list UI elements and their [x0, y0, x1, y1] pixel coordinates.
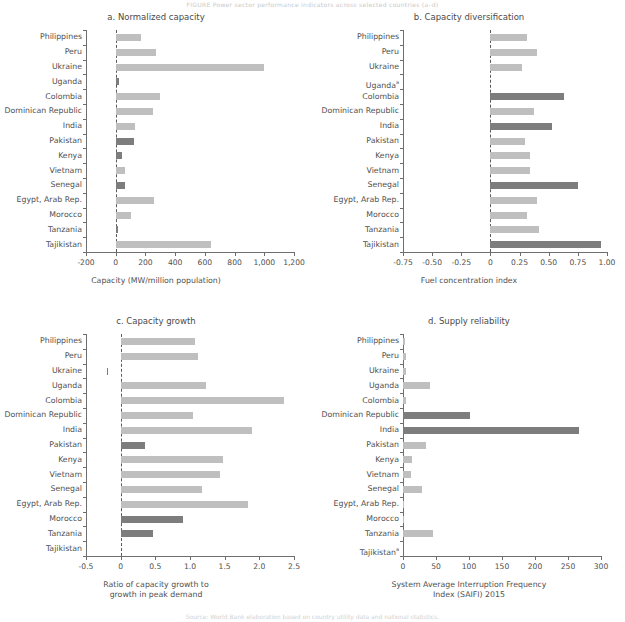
panel-d-bar [403, 486, 422, 493]
panel-a-category-label: Ukraine [0, 63, 82, 71]
panel-d-supply-reliability: d. Supply reliability PhilippinesPeruUkr… [313, 312, 625, 612]
panel-b-category-label: Pakistan [313, 137, 399, 145]
panel-c-bar [121, 516, 183, 523]
panel-b-x-tick-label: 1.00 [587, 258, 625, 267]
panel-a-category-label: Morocco [0, 211, 82, 219]
panel-d-bar [403, 501, 404, 508]
panel-d-x-tick [502, 556, 503, 560]
panel-a-x-tick [294, 252, 295, 256]
panel-c-y-tick [83, 541, 86, 542]
panel-d-y-tick [400, 467, 403, 468]
panel-b-category-label: India [313, 122, 399, 130]
panel-d-category-label: Philippines [313, 337, 399, 345]
panel-a-category-label: Peru [0, 48, 82, 56]
panel-a-bar [116, 49, 156, 56]
panel-a-x-axis-title: Capacity (MW/million population) [0, 276, 312, 286]
panel-b-y-tick [400, 104, 403, 105]
panel-a-y-tick [83, 208, 86, 209]
panel-a-y-tick [83, 119, 86, 120]
panel-c-category-label: Ukraine [0, 367, 82, 375]
panel-d-y-tick [400, 378, 403, 379]
panel-a-bar [116, 226, 118, 233]
panel-c-y-tick [83, 482, 86, 483]
panel-a-y-tick [83, 148, 86, 149]
panel-c-category-label: Colombia [0, 397, 82, 405]
panel-a-bar [116, 212, 131, 219]
panel-d-x-tick [436, 556, 437, 560]
panel-b-category-label: Vietnam [313, 167, 399, 175]
panel-b-x-tick [490, 252, 491, 256]
panel-c-category-label: India [0, 426, 82, 434]
panel-c-x-tick [155, 556, 156, 560]
panel-c-category-label: Peru [0, 352, 82, 360]
panel-b-bar [490, 167, 530, 174]
panel-a-y-tick [83, 178, 86, 179]
panel-b-category-label: Ukraine [313, 63, 399, 71]
panel-d-bar [403, 382, 430, 389]
panel-b-y-tick [400, 222, 403, 223]
panel-c-bar [121, 501, 249, 508]
panel-b-bar [490, 182, 577, 189]
panel-a-y-tick [83, 74, 86, 75]
panel-b-y-tick [400, 74, 403, 75]
panel-d-category-label: Uganda [313, 382, 399, 390]
panel-a-category-label: Tanzania [0, 226, 82, 234]
panel-c-x-tick [190, 556, 191, 560]
panel-a-bar [116, 34, 141, 41]
panel-a-bar [116, 241, 211, 248]
panel-c-bar [121, 382, 206, 389]
panel-a-x-tick [235, 252, 236, 256]
panel-b-y-tick [400, 163, 403, 164]
panel-c-x-tick [225, 556, 226, 560]
panel-c-y-tick [83, 467, 86, 468]
panel-a-x-tick [145, 252, 146, 256]
panel-a-bar [116, 197, 155, 204]
panel-c-category-label: Pakistan [0, 441, 82, 449]
panel-a-category-label: Uganda [0, 78, 82, 86]
panel-d-bar [403, 397, 406, 404]
panel-d-y-tick [400, 408, 403, 409]
panel-c-category-label: Tajikistan [0, 545, 82, 553]
panel-c-bar [121, 397, 284, 404]
panel-b-bar [490, 108, 533, 115]
panel-d-bar [403, 471, 411, 478]
panel-c-category-label: Egypt, Arab Rep. [0, 500, 82, 508]
panel-b-x-tick [578, 252, 579, 256]
panel-d-category-label: Dominican Republic [313, 411, 399, 419]
panel-b-bar [490, 93, 563, 100]
panel-b-x-tick [432, 252, 433, 256]
panel-d-category-label: Colombia [313, 397, 399, 405]
panel-a-y-tick [83, 104, 86, 105]
panel-a-y-tick [83, 237, 86, 238]
panel-b-y-tick [400, 89, 403, 90]
panel-c-bar [121, 427, 253, 434]
figure-container: FIGURE Power sector performance indicato… [0, 0, 625, 622]
panel-b-x-axis-title: Fuel concentration index [313, 276, 625, 286]
panel-a-x-tick [205, 252, 206, 256]
panel-a-category-label: Tajikistan [0, 241, 82, 249]
panel-b-x-tick [403, 252, 404, 256]
panel-b-category-label: Morocco [313, 211, 399, 219]
panel-c-x-axis-title-line2: growth in peak demand [0, 590, 312, 600]
panel-c-y-tick [83, 512, 86, 513]
panel-d-y-tick [400, 541, 403, 542]
panel-a-category-label: Egypt, Arab Rep. [0, 196, 82, 204]
panel-d-category-label: Peru [313, 352, 399, 360]
panel-b-y-tick [400, 134, 403, 135]
panel-a-y-tick [83, 60, 86, 61]
panel-d-bar [403, 456, 412, 463]
panel-b-y-tick [400, 178, 403, 179]
panel-a-bar [116, 182, 125, 189]
panel-b-category-label: Ugandaa [313, 78, 399, 90]
panel-b-y-tick [400, 148, 403, 149]
panel-c-y-tick [83, 438, 86, 439]
panel-c-x-tick [294, 556, 295, 560]
panel-d-bar [403, 516, 404, 523]
panel-c-category-label: Dominican Republic [0, 411, 82, 419]
panel-c-y-tick [83, 349, 86, 350]
panel-a-bar [116, 138, 134, 145]
panel-d-x-axis-title: System Average Interruption FrequencyInd… [313, 580, 625, 600]
panel-d-bar [403, 427, 579, 434]
panel-a-bar [116, 123, 135, 130]
panel-b-category-label: Tanzania [313, 226, 399, 234]
